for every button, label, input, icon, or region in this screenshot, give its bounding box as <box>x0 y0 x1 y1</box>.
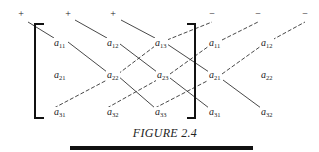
positive-diagonal-lines <box>28 20 261 108</box>
minus-sign: − <box>255 8 261 19</box>
plus-sign: + <box>18 8 24 19</box>
dashed-diagonal-segment <box>222 22 258 40</box>
dashed-diagonal-segment <box>54 80 107 108</box>
minus-sign: − <box>302 8 308 19</box>
solid-diagonal-segment <box>223 80 261 108</box>
solid-diagonal-segment <box>170 78 209 108</box>
dashed-diagonal-segment <box>155 80 209 108</box>
solid-diagonal-segment <box>167 44 209 72</box>
dashed-diagonal-segment <box>272 22 305 40</box>
negative-diagonal-lines <box>54 22 305 108</box>
left-matrix-bracket <box>35 24 44 118</box>
minus-sign: − <box>209 8 215 19</box>
figure-caption: FIGURE 2.4 <box>132 126 197 140</box>
solid-diagonal-segment <box>68 42 107 72</box>
solid-diagonal-segment <box>75 20 107 38</box>
plus-sign: + <box>110 8 116 19</box>
plus-sign: + <box>65 8 71 19</box>
sign-markers: +++−−− <box>18 8 308 19</box>
matrix-element-labels: a11a12a13a11a12a21a22a23a21a22a31a32a33a… <box>53 37 274 119</box>
solid-diagonal-segment <box>121 20 155 38</box>
dashed-diagonal-segment <box>222 46 261 74</box>
dashed-diagonal-segment <box>118 46 155 74</box>
solid-diagonal-segment <box>118 76 155 108</box>
right-matrix-bracket <box>187 24 195 118</box>
determinant-diagram: +++−−− a11a12a13a11a12a21a22a23a21a22a31… <box>0 0 319 152</box>
caption-underline-rule <box>70 146 253 150</box>
sarrus-rule-figure: +++−−− a11a12a13a11a12a21a22a23a21a22a31… <box>0 0 319 152</box>
